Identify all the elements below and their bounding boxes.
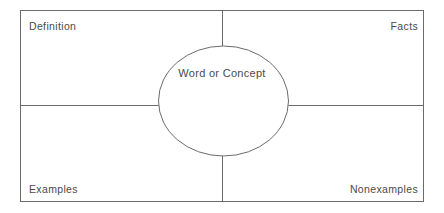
frayer-model-diagram: Definition Facts Examples Nonexamples Wo…	[0, 0, 444, 213]
quadrant-label-definition: Definition	[29, 21, 76, 32]
quadrant-label-facts: Facts	[391, 21, 418, 32]
center-label: Word or Concept	[0, 68, 444, 79]
quadrant-label-examples: Examples	[29, 184, 78, 195]
center-ellipse	[159, 46, 289, 156]
quadrant-label-nonexamples: Nonexamples	[350, 184, 418, 195]
